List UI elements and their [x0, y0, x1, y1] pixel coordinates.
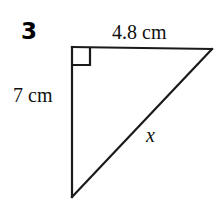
left-side-length-label: 7 cm: [13, 85, 52, 105]
top-side-length-label: 4.8 cm: [112, 22, 166, 42]
triangle-hypotenuse: [72, 49, 212, 197]
geometry-figure-canvas: 3 4.8 cm 7 cm x: [0, 0, 222, 205]
triangle-top-side: [72, 47, 212, 49]
hypotenuse-unknown-label: x: [146, 125, 155, 145]
right-angle-marker-icon: [72, 47, 90, 65]
problem-number: 3: [21, 20, 37, 43]
